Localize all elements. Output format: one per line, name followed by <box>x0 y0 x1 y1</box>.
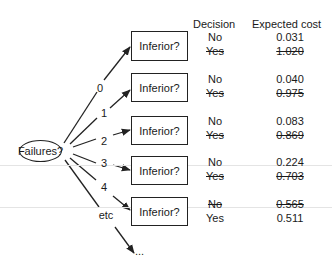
edge-2-lower <box>73 139 96 147</box>
cost-no-0: 0.031 <box>276 31 304 43</box>
decision-no-2: No <box>208 115 222 127</box>
decision-yes-0: Yes <box>206 45 224 57</box>
node-label: Inferior? <box>139 165 179 177</box>
cost-yes-1: 0.975 <box>276 87 304 99</box>
branch-label-1: 1 <box>101 107 107 119</box>
node-label: Inferior? <box>139 125 179 137</box>
decision-no-0: No <box>208 31 222 43</box>
cost-yes-4: 0.511 <box>277 212 304 224</box>
branch-label-3: 3 <box>101 157 107 169</box>
root-node-failures: Failures? <box>19 140 62 162</box>
node-label: Inferior? <box>139 82 179 94</box>
cost-no-1: 0.040 <box>276 73 304 85</box>
edge-0-lower <box>64 92 97 143</box>
cost-no-4: 0.565 <box>276 198 304 210</box>
decision-yes-2: Yes <box>206 129 224 141</box>
node-inferior-1: Inferior? <box>131 73 188 102</box>
node-label: Inferior? <box>139 40 179 52</box>
node-label: Inferior? <box>139 206 179 218</box>
edge-1-upper <box>110 90 130 108</box>
cost-yes-0: 1.020 <box>276 45 304 57</box>
decision-yes-1: Yes <box>206 87 224 99</box>
decision-yes-4: Yes <box>206 212 224 224</box>
edge-0-upper <box>104 47 130 80</box>
branch-label-2: 2 <box>101 135 107 147</box>
decision-yes-3: Yes <box>206 170 224 182</box>
decision-no-3: No <box>208 156 222 168</box>
cost-no-2: 0.083 <box>276 115 304 127</box>
branch-label-0: 0 <box>97 82 103 94</box>
edge-etc-lower <box>65 160 99 207</box>
header-expected-cost: Expected cost <box>252 18 321 30</box>
node-inferior-3: Inferior? <box>131 156 188 185</box>
edge-etc-upper <box>115 227 134 253</box>
header-decision: Decision <box>193 18 235 30</box>
decision-no-1: No <box>208 73 222 85</box>
decision-no-4: No <box>208 198 222 210</box>
cost-yes-2: 0.869 <box>276 129 304 141</box>
branch-label-etc: etc <box>99 209 114 221</box>
branch-label-4: 4 <box>101 181 107 193</box>
cost-no-3: 0.224 <box>276 156 304 168</box>
node-inferior-0: Inferior? <box>131 31 188 61</box>
root-node-label: Failures? <box>18 145 63 157</box>
edge-3-lower <box>73 154 96 163</box>
terminal-ellipsis: ... <box>135 245 144 257</box>
node-inferior-4: Inferior? <box>131 197 188 226</box>
node-inferior-2: Inferior? <box>131 116 188 145</box>
cost-yes-3: 0.703 <box>276 170 304 182</box>
edge-2-upper <box>113 130 130 135</box>
